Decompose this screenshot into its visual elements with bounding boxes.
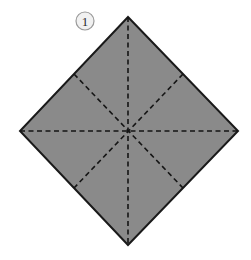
origami-diagram: 1 — [0, 0, 251, 260]
step-number-badge: 1 — [76, 12, 94, 30]
step-badge-label: 1 — [82, 14, 89, 29]
origami-figure: 1 — [0, 0, 251, 260]
